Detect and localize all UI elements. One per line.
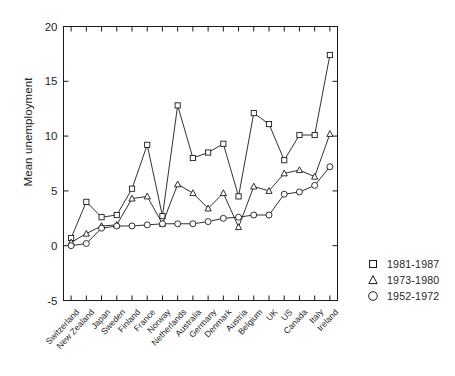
legend-marker-circle	[365, 288, 381, 304]
y-tick-label: 5	[28, 186, 58, 196]
chart-figure: Mean unemployment -505101520 Switzerland…	[0, 0, 455, 376]
legend-item: 1952-1972	[365, 288, 439, 304]
chart-legend: 1981-1987 1973-1980 1952-1972	[365, 256, 439, 304]
y-tick-label: 10	[28, 131, 58, 141]
legend-label: 1981-1987	[387, 258, 439, 270]
legend-item: 1973-1980	[365, 272, 439, 288]
y-tick-label: 0	[28, 241, 58, 251]
legend-marker-triangle	[365, 272, 381, 288]
legend-label: 1952-1972	[387, 290, 439, 302]
y-tick-label: 15	[28, 76, 58, 86]
legend-marker-square	[365, 256, 381, 272]
legend-item: 1981-1987	[365, 256, 439, 272]
legend-label: 1973-1980	[387, 274, 439, 286]
y-tick-label: 20	[28, 22, 58, 32]
y-tick-label: -5	[28, 296, 58, 306]
